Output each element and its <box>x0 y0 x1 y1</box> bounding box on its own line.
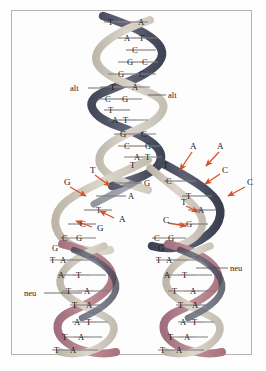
base-letter: G <box>127 58 133 67</box>
base-letter: G <box>145 142 151 151</box>
base-letter: G <box>168 234 174 243</box>
base-letter: A <box>176 346 182 355</box>
free-nucleotide: T <box>181 198 187 207</box>
base-letter: C <box>154 234 160 243</box>
base-letter: T <box>50 256 55 265</box>
dna-diagram-canvas <box>0 0 266 371</box>
base-letter: A <box>192 301 198 310</box>
label-alt-right: alt <box>168 91 177 100</box>
base-letter: G <box>122 95 128 104</box>
free-nucleotide: C <box>222 166 228 175</box>
base-letter: T <box>160 346 165 355</box>
base-letter: T <box>178 301 183 310</box>
free-nucleotide: A <box>119 215 126 224</box>
base-letter: T <box>96 206 101 215</box>
base-letter: T <box>72 301 77 310</box>
base-letter: A <box>166 256 172 265</box>
base-letter: A <box>60 256 66 265</box>
base-letter: G <box>76 234 82 243</box>
free-nucleotide: C <box>247 178 253 187</box>
base-letter: T <box>86 318 91 327</box>
base-letter: A <box>124 34 130 43</box>
base-letter: T <box>76 271 81 280</box>
base-letter: A <box>164 271 170 280</box>
base-letter: T <box>66 287 71 296</box>
base-letter: A <box>128 192 134 201</box>
base-letter: T <box>168 333 173 342</box>
base-letter: A <box>84 287 90 296</box>
base-letter: T <box>108 106 113 115</box>
free-nucleotide: C <box>163 216 169 225</box>
base-letter: T <box>192 318 197 327</box>
base-letter: T <box>123 116 128 125</box>
free-nucleotide: A <box>217 142 224 151</box>
base-letter: T <box>110 83 115 92</box>
label-neu-right: neu <box>230 264 242 273</box>
base-letter: T <box>54 346 59 355</box>
base-letter: G <box>52 244 58 253</box>
base-letter: C <box>141 130 147 139</box>
base-letter: T <box>139 34 144 43</box>
base-letter: T <box>182 271 187 280</box>
base-letter: G <box>144 179 150 188</box>
base-letter: T <box>108 18 113 27</box>
base-letter: T <box>62 333 67 342</box>
base-letter: C <box>80 220 86 229</box>
base-letter: G <box>120 130 126 139</box>
base-letter: A <box>138 18 144 27</box>
base-letter: T <box>130 161 135 170</box>
base-letter: C <box>166 177 172 186</box>
label-neu-left: neu <box>24 289 36 298</box>
label-alt-left: alt <box>70 84 79 93</box>
base-letter: A <box>112 116 118 125</box>
base-letter: T <box>163 161 168 170</box>
base-letter: A <box>58 271 64 280</box>
base-letter: C <box>142 58 148 67</box>
base-letter: A <box>198 206 204 215</box>
base-letter: A <box>74 318 80 327</box>
base-letter: G <box>118 70 124 79</box>
free-nucleotide: A <box>190 142 197 151</box>
base-letter: C <box>132 46 138 55</box>
free-nucleotide: G <box>97 224 104 233</box>
base-letter: C <box>105 95 111 104</box>
base-letter: C <box>139 70 145 79</box>
base-letter: T <box>172 287 177 296</box>
base-letter: G <box>158 244 164 253</box>
base-letter: G <box>186 220 192 229</box>
base-letter: A <box>132 83 138 92</box>
base-letter: A <box>70 346 76 355</box>
base-letter: A <box>86 301 92 310</box>
base-letter: T <box>156 256 161 265</box>
free-nucleotide: G <box>64 178 71 187</box>
base-letter: T <box>145 153 150 162</box>
base-letter: A <box>180 318 186 327</box>
base-letter: A <box>190 287 196 296</box>
base-letter: A <box>78 333 84 342</box>
base-letter: C <box>124 142 130 151</box>
dna-replication-figure: T A A T C G C G C T A C G T A T G C C G … <box>0 0 266 371</box>
base-letter: A <box>184 333 190 342</box>
base-letter: C <box>62 234 68 243</box>
free-nucleotide: T <box>90 166 96 175</box>
